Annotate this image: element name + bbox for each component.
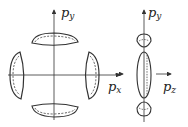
pz-label-right: pz — [163, 80, 176, 95]
py-label-right: py — [148, 6, 161, 21]
top-lobe — [32, 33, 78, 45]
bottom-lobe — [32, 104, 78, 117]
right-panel — [115, 10, 171, 122]
py-label-left: py — [61, 6, 74, 21]
left-panel — [8, 10, 120, 120]
px-label-left: px — [108, 80, 121, 95]
